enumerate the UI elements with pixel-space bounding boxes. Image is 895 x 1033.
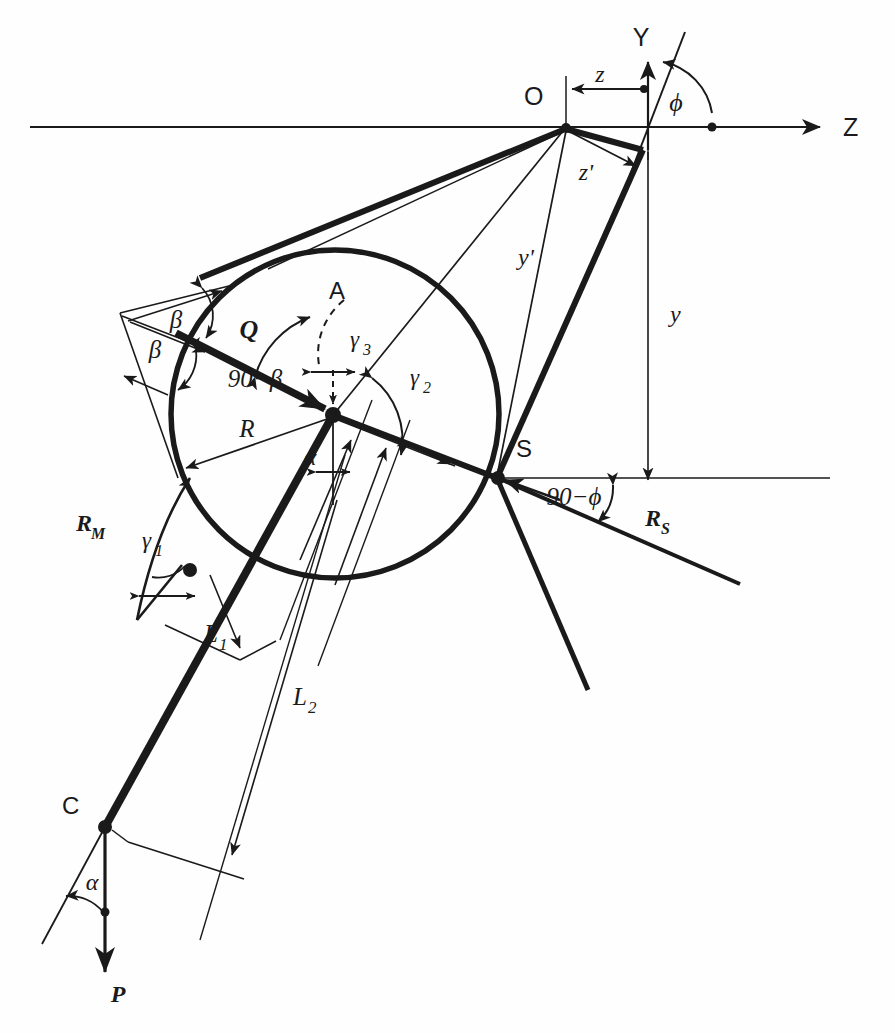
node-o: [561, 123, 571, 133]
label-angle-ninety-minus-beta: 90−β: [228, 365, 283, 392]
label-angle-gamma1: γ 1: [142, 528, 163, 559]
bold-line-o-to-s: [566, 129, 643, 150]
ray-yprime-to-s: [497, 131, 566, 476]
label-vector-P: P: [110, 981, 126, 1007]
label-angle-phi: ϕ: [669, 88, 682, 117]
inner-ray-guide-a: [280, 400, 372, 640]
label-vector-RM: R M: [75, 510, 106, 542]
label-axis-Y: Y: [633, 23, 650, 51]
alpha2-arc: [66, 896, 103, 912]
label-dim-yprime: y': [516, 244, 535, 270]
diagram-svg: Y Z O z z' ϕ y y' A S C Q P R M R S R L …: [0, 0, 895, 1033]
label-vector-RM-base: R: [75, 510, 92, 536]
label-angle-gamma2-base: γ: [410, 365, 420, 390]
gamma3-dashed-arc: [318, 300, 344, 370]
label-dim-zprime: z': [578, 159, 594, 185]
label-vector-RS-base: R: [644, 505, 661, 531]
label-dim-L2: L 2: [292, 683, 317, 717]
bold-line-yfoot-to-s: [497, 150, 643, 478]
label-angle-gamma2: γ 2: [410, 365, 431, 396]
member-hub-to-s: [333, 415, 497, 478]
label-angle-gamma3-base: γ: [350, 327, 360, 352]
l1-guide: [240, 641, 276, 660]
inner-ray-guide-b: [318, 420, 410, 666]
label-point-A: A: [329, 277, 345, 304]
label-angle-alpha-C: α: [86, 869, 99, 895]
label-vector-RM-sub: M: [90, 525, 106, 542]
label-angle-gamma1-base: γ: [142, 528, 152, 553]
diagram-canvas: Y Z O z z' ϕ y y' A S C Q P R M R S R L …: [0, 0, 895, 1033]
label-angle-beta-lower: β: [148, 336, 162, 363]
label-point-C: C: [62, 792, 79, 819]
l2-dimension-line: [128, 842, 244, 879]
hub-node: [325, 407, 341, 423]
label-angle-gamma1-sub: 1: [155, 542, 163, 559]
label-dim-y: y: [668, 301, 681, 327]
label-vector-RS-sub: S: [661, 520, 670, 537]
label-dim-L2-base: L: [292, 683, 307, 710]
label-origin-O: O: [524, 82, 543, 110]
label-vector-RS: R S: [644, 505, 670, 537]
label-dim-L2-sub: 2: [308, 698, 317, 717]
node-s: [491, 471, 505, 485]
label-point-S: S: [516, 435, 532, 462]
beta-lower-arrow-left: [124, 376, 168, 395]
inner-ray-2: [335, 448, 386, 585]
label-angle-beta-upper: β: [169, 306, 183, 333]
label-dim-L1-sub: 1: [219, 635, 228, 654]
c-to-l2-tick: [112, 830, 128, 842]
label-angle-alpha-hub: α: [304, 444, 317, 470]
member-c-to-hub: [105, 415, 333, 827]
chord-arrowhead-a: [372, 430, 410, 446]
label-angle-gamma3: γ 3: [350, 327, 371, 358]
label-angle-gamma2-sub: 2: [423, 379, 431, 396]
label-dim-L1-base: L: [203, 620, 218, 647]
label-vector-Q: Q: [240, 315, 259, 344]
label-axis-Z: Z: [843, 113, 858, 141]
node-lower-left-circle: [183, 563, 197, 577]
chord-guide-below-hub: [333, 418, 455, 466]
label-dim-R: R: [238, 415, 254, 442]
label-angle-ninety-minus-phi: 90−ϕ: [547, 483, 602, 510]
phi-vertex-dot: [708, 123, 717, 132]
label-angle-gamma3-sub: 3: [362, 341, 371, 358]
label-dim-z: z: [594, 61, 605, 87]
z-dim-origin-dot: [640, 85, 648, 93]
